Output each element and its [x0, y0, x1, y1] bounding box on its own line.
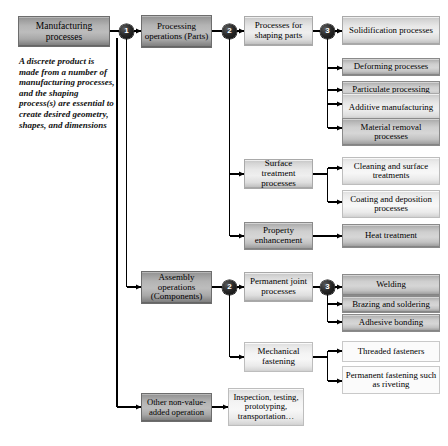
badge-label: 3: [325, 27, 329, 35]
node-label: Deforming processes: [354, 62, 429, 72]
badge-label: 1: [124, 27, 128, 35]
badge-label: 3: [325, 283, 329, 291]
node-brazing-and-soldering[interactable]: Brazing and soldering: [342, 296, 440, 313]
node-label: Coating and deposition processes: [345, 195, 437, 214]
node-label: Threaded fasteners: [358, 347, 425, 357]
explanatory-note-text: A discrete product is made from a number…: [19, 56, 115, 130]
node-processing-operations[interactable]: Processing operations (Parts): [141, 15, 212, 48]
node-label: Property enhancement: [247, 226, 310, 245]
node-label: Permanent joint processes: [247, 277, 310, 296]
badge-label: 2: [227, 27, 231, 35]
badge-step-1: 1: [119, 24, 134, 39]
node-label: Heat treatment: [365, 231, 417, 241]
node-mechanical-fastening[interactable]: Mechanical fastening: [244, 342, 313, 372]
node-property-enhancement[interactable]: Property enhancement: [244, 222, 313, 250]
node-manufacturing-processes[interactable]: Manufacturing processes: [18, 16, 110, 47]
node-cleaning-and-surface-treatments[interactable]: Cleaning and surface treatments: [342, 157, 440, 185]
node-label: Brazing and soldering: [352, 300, 430, 310]
node-label: Surface treatment processes: [247, 159, 310, 188]
node-processes-for-shaping-parts[interactable]: Processes for shaping parts: [244, 16, 313, 46]
node-permanent-fastening-riveting[interactable]: Permanent fastening such as riveting: [342, 366, 440, 394]
node-solidification-processes[interactable]: Solidification processes: [342, 16, 440, 45]
flowchart-diagram: Manufacturing processes A discrete produ…: [0, 0, 448, 446]
node-material-removal-processes[interactable]: Material removal processes: [342, 118, 440, 146]
node-label: Inspection, testing, prototyping, transp…: [231, 393, 301, 421]
node-label: Other non-value-added operation: [144, 398, 209, 417]
node-coating-and-deposition-processes[interactable]: Coating and deposition processes: [342, 190, 440, 218]
node-deforming-processes[interactable]: Deforming processes: [342, 58, 440, 76]
node-other-non-value-added-operation[interactable]: Other non-value-added operation: [141, 393, 212, 422]
node-inspection-testing-prototyping[interactable]: Inspection, testing, prototyping, transp…: [228, 388, 304, 426]
badge-step-2-assembly: 2: [222, 280, 237, 295]
node-label: Additive manufacturing: [349, 103, 433, 113]
node-label: Assembly operations (Components): [144, 273, 209, 302]
node-label: Welding: [376, 280, 406, 290]
badge-step-3-permanent-joint: 3: [320, 280, 335, 295]
node-label: Processes for shaping parts: [247, 21, 310, 40]
node-label: Cleaning and surface treatments: [345, 162, 437, 181]
node-label: Manufacturing processes: [21, 21, 107, 42]
badge-step-2-processing: 2: [222, 24, 237, 39]
node-label: Mechanical fastening: [247, 347, 310, 366]
node-heat-treatment[interactable]: Heat treatment: [342, 224, 440, 248]
node-adhesive-bonding[interactable]: Adhesive bonding: [342, 314, 440, 332]
badge-step-3-shaping: 3: [320, 24, 335, 39]
node-label: Solidification processes: [349, 26, 433, 36]
node-label: Permanent fastening such as riveting: [345, 371, 437, 390]
node-surface-treatment-processes[interactable]: Surface treatment processes: [244, 159, 313, 189]
node-threaded-fasteners[interactable]: Threaded fasteners: [342, 341, 440, 362]
node-permanent-joint-processes[interactable]: Permanent joint processes: [244, 272, 313, 302]
node-assembly-operations[interactable]: Assembly operations (Components): [141, 271, 212, 304]
node-welding[interactable]: Welding: [342, 274, 440, 296]
node-label: Adhesive bonding: [359, 318, 423, 328]
node-label: Processing operations (Parts): [144, 22, 209, 41]
explanatory-note: A discrete product is made from a number…: [19, 56, 115, 130]
node-label: Material removal processes: [345, 123, 437, 142]
badge-label: 2: [227, 283, 231, 291]
